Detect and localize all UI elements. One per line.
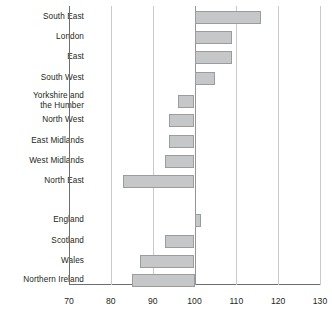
- bar: [169, 135, 194, 148]
- bar-chart: South EastLondonEastSouth WestYorkshire …: [0, 0, 332, 309]
- x-tick-label: 130: [313, 296, 327, 306]
- x-tick-label: 80: [106, 296, 116, 306]
- bar: [178, 95, 195, 108]
- x-tick-label: 110: [229, 296, 243, 306]
- gridline-130: [320, 6, 321, 285]
- x-tick-label: 70: [64, 296, 74, 306]
- bar: [123, 175, 194, 188]
- bar: [165, 155, 194, 168]
- x-tick-label: 100: [187, 296, 201, 306]
- bar: [195, 11, 262, 24]
- y-axis-line: [69, 6, 70, 285]
- x-tick-label: 120: [271, 296, 285, 306]
- gridline-90: [153, 6, 154, 285]
- bar: [132, 274, 195, 287]
- bar: [140, 255, 194, 268]
- bar: [195, 31, 233, 44]
- bar: [165, 235, 194, 248]
- bar: [195, 214, 201, 227]
- bar: [169, 114, 194, 127]
- bar: [195, 72, 216, 85]
- gridline-80: [111, 6, 112, 285]
- bar: [195, 51, 233, 64]
- gridline-100: [195, 6, 196, 285]
- gridline-120: [278, 6, 279, 285]
- x-tick-label: 90: [148, 296, 158, 306]
- plot-area: 708090100110120130: [69, 6, 320, 285]
- gridline-110: [236, 6, 237, 285]
